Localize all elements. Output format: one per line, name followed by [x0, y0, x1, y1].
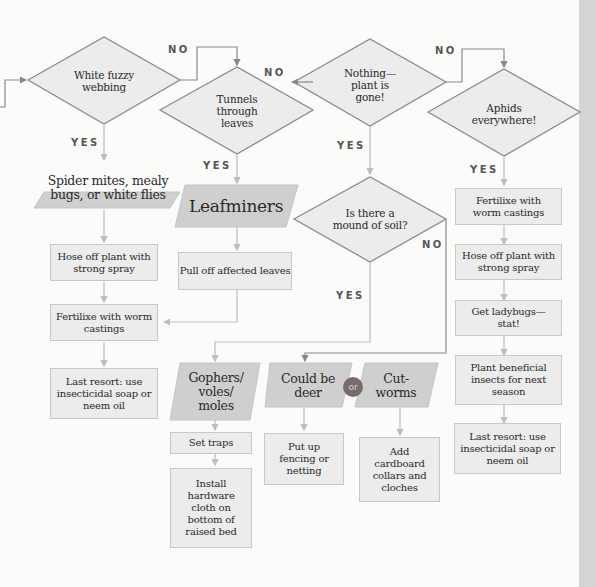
action-ladybugs: Get ladybugs—stat! — [455, 300, 562, 336]
question-aphids: Aphids everywhere! — [462, 97, 546, 131]
action-hardware-cloth: Install hardware cloth on bottom of rais… — [170, 468, 252, 548]
result-gophers: Gophers/ voles/ moles — [176, 366, 256, 418]
result-deer: Could be deer — [270, 366, 346, 406]
action-hose-off: Hose off plant with strong spray — [50, 244, 158, 281]
or-badge: or — [343, 377, 363, 397]
action-last-resort: Last resort: use insecticidal soap or ne… — [50, 368, 158, 419]
label-yes: YES — [203, 160, 232, 171]
label-yes: YES — [470, 164, 499, 175]
action-set-traps: Set traps — [170, 432, 252, 454]
label-yes: YES — [337, 140, 366, 151]
question-mound: Is there a mound of soil? — [328, 204, 412, 234]
action-pull-off-leaves: Pull off affected leaves — [178, 252, 292, 290]
result-cutworms: Cut-worms — [363, 366, 429, 406]
question-white-fuzzy: White fuzzy webbing — [62, 64, 146, 98]
label-no: NO — [264, 67, 286, 78]
action-beneficial-insects: Plant beneficial insects for next season — [455, 355, 562, 405]
result-leafminers: Leafminers — [180, 186, 292, 226]
label-yes: YES — [71, 137, 100, 148]
action-aphids-hose: Hose off plant with strong spray — [455, 244, 562, 280]
action-aphids-fertilize: Fertilixe with worm castings — [455, 188, 562, 225]
action-aphids-last-resort: Last resort: use insecticidal soap or ne… — [454, 423, 561, 474]
label-no: NO — [422, 239, 444, 250]
action-fencing: Put up fencing or netting — [264, 433, 344, 485]
label-yes: YES — [336, 290, 365, 301]
question-nothing: Nothing—plant is gone! — [335, 62, 405, 108]
label-no: NO — [168, 44, 190, 55]
result-spider-mites: Spider mites, mealy bugs, or white flies — [38, 168, 178, 208]
action-fertilize: Fertilixe with worm castings — [50, 304, 158, 341]
action-cardboard-collars: Add cardboard collars and cloches — [359, 437, 440, 502]
question-tunnels: Tunnels through leaves — [205, 88, 269, 134]
label-no: NO — [435, 45, 457, 56]
